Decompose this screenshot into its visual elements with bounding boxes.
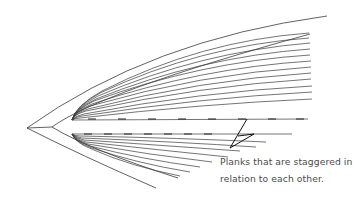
caption-line-2: relation to each other.	[220, 170, 352, 187]
inner-bottom-branch	[52, 127, 178, 178]
center-spine	[27, 127, 52, 128]
caption-line-1: Planks that are staggered in	[220, 153, 352, 170]
pointer-line-upper	[230, 119, 247, 148]
annotation-caption: Planks that are staggered in relation to…	[220, 153, 352, 187]
annotation-pointer	[230, 119, 254, 148]
